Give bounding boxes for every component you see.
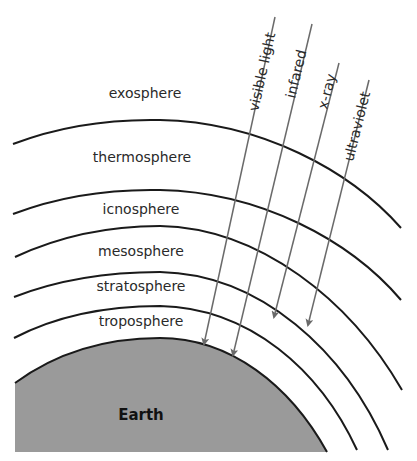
boundary-exosphere-thermosphere	[13, 120, 401, 228]
layer-label-exosphere: exosphere	[109, 85, 182, 101]
layer-label-thermosphere: thermosphere	[93, 149, 191, 165]
ray-label-ultraviolet: ultraviolet	[340, 89, 373, 163]
layer-label-icnosphere: icnosphere	[103, 201, 180, 217]
ray-label-x-ray: x-ray	[314, 72, 338, 111]
atmosphere-diagram: exosphere thermosphere icnosphere mesosp…	[0, 0, 417, 461]
layer-label-mesosphere: mesosphere	[98, 243, 184, 259]
layer-label-stratosphere: stratosphere	[97, 278, 186, 294]
ray-label-visible-light: visible light	[245, 30, 278, 112]
layer-label-troposphere: troposphere	[99, 313, 184, 329]
boundary-thermosphere-icnosphere	[13, 190, 401, 300]
earth-label: Earth	[118, 406, 164, 424]
earth-shape	[15, 338, 327, 452]
ray-label-infared: infared	[282, 48, 309, 100]
